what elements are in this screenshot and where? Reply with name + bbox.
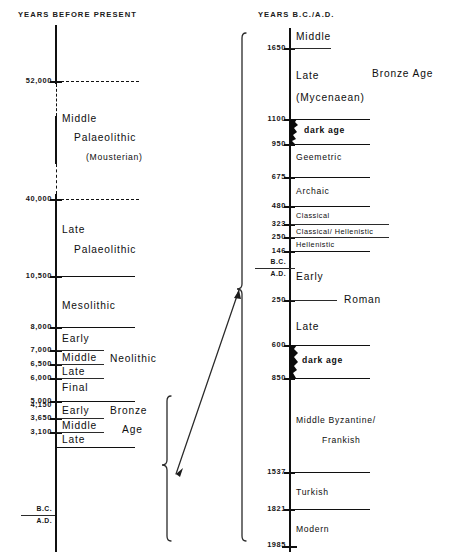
right-divider-250-bc: [291, 237, 389, 238]
left-divider-10500: [57, 276, 135, 277]
left-divider-3650: [57, 418, 104, 419]
right-era-divider: [255, 268, 295, 269]
left-divider-3100: [57, 432, 104, 433]
right-group-label-roman: Roman: [344, 294, 381, 305]
left-tick-label-10500: 10,500: [14, 271, 52, 280]
left-group-label-bronze-line2: Age: [122, 424, 143, 435]
left-tick-label-3650: 3,650: [14, 413, 52, 422]
left-group-label-bronze: Bronze: [110, 405, 147, 416]
left-divider-40000: [61, 199, 139, 200]
right-tick-label-675: 675: [256, 172, 286, 181]
right-period-geometric: Geemetric: [296, 152, 342, 162]
right-divider-1100: [291, 119, 370, 120]
left-axis-spine-bottom: [55, 194, 57, 552]
right-tick-label-1100: 1100: [256, 114, 286, 123]
right-period-dark-age-bronze: dark age: [304, 125, 345, 135]
right-tick-label-480: 480: [256, 201, 286, 210]
left-divider-7000: [57, 350, 104, 351]
right-tick-label-1821: 1821: [252, 504, 286, 513]
right-era-label-bc: B.C.: [252, 258, 286, 265]
left-divider-52000: [61, 81, 139, 82]
right-period-middle-bronze: Middle: [296, 31, 331, 42]
left-era-label-ad: A.D.: [18, 517, 52, 524]
two-column-timeline-figure: YEARS BEFORE PRESENT 52,000 Middle Palae…: [0, 0, 460, 553]
left-axis-spine-dashed-middle: [56, 84, 57, 116]
right-divider-480: [291, 206, 370, 207]
left-period-late-palaeolithic-line2: Palaeolithic: [74, 244, 136, 255]
right-divider-146: [291, 251, 370, 252]
left-divider-5000: [57, 401, 135, 402]
right-tick-mark-1985: [282, 546, 297, 548]
dark-age-blob-bronze: [286, 119, 300, 144]
right-tick-label-1985: 1985: [252, 540, 286, 549]
left-tick-label-3100: 3,100: [14, 427, 52, 436]
right-column-title: YEARS B.C./A.D.: [258, 10, 335, 19]
right-period-modern: Modern: [296, 524, 329, 534]
right-period-mycenaean-note: (Mycenaean): [296, 92, 365, 103]
right-period-classical: Classical: [296, 211, 330, 220]
left-divider-6000: [57, 378, 104, 379]
right-divider-250-ad: [291, 300, 337, 301]
left-period-middle-palaeolithic-line2: Palaeolithic: [74, 132, 136, 143]
left-tick-label-40000: 40,000: [14, 194, 52, 203]
left-axis-spine-dashed-late: [56, 164, 57, 194]
right-tick-label-1537: 1537: [252, 467, 286, 476]
left-axis-spine-top: [55, 25, 57, 84]
right-period-archaic: Archaic: [296, 186, 330, 196]
left-tick-label-8000: 8,000: [14, 322, 52, 331]
right-tick-label-250-ad: 250: [256, 295, 286, 304]
right-tick-label-323: 323: [256, 219, 286, 228]
right-divider-675: [291, 177, 370, 178]
left-period-neolithic-middle: Middle: [62, 352, 97, 363]
right-divider-323: [291, 224, 389, 225]
right-tick-label-1650: 1650: [256, 43, 286, 52]
left-group-label-neolithic: Neolithic: [110, 353, 157, 364]
right-tick-label-600: 600: [256, 340, 286, 349]
right-period-early-roman: Early: [296, 271, 323, 282]
right-period-turkish: Turkish: [296, 487, 329, 497]
right-divider-1650: [291, 48, 331, 49]
left-period-neolithic-late: Late: [62, 366, 85, 377]
left-tick-label-6500: 6,500: [14, 359, 52, 368]
right-period-late-roman: Late: [296, 321, 319, 332]
right-period-middle-byzantine: Middle Byzantine/: [296, 415, 376, 425]
right-tick-label-146: 146: [256, 246, 286, 255]
right-divider-850: [291, 378, 370, 379]
right-period-late-mycenaean: Late: [296, 70, 319, 81]
left-period-mesolithic: Mesolithic: [62, 300, 116, 311]
dark-age-blob-byzantine: [286, 345, 300, 378]
left-tick-label-6000: 6,000: [14, 373, 52, 382]
left-period-neolithic-early: Early: [62, 333, 89, 344]
left-axis-spine-middle: [55, 116, 57, 164]
left-divider-8000: [57, 327, 135, 328]
right-group-label-bronze-age: Bronze Age: [372, 68, 433, 79]
left-divider-bronze-end: [57, 447, 135, 448]
right-period-classical-hellenistic: Classical/ Hellenistic: [296, 227, 374, 236]
left-period-middle-palaeolithic: Middle: [62, 113, 97, 124]
right-era-label-ad: A.D.: [252, 270, 286, 277]
left-divider-6500: [57, 364, 104, 365]
right-period-frankish: Frankish: [322, 435, 361, 445]
right-divider-950: [291, 144, 370, 145]
right-tick-label-950: 950: [256, 139, 286, 148]
left-era-label-bc: B.C.: [18, 505, 52, 512]
left-tick-label-7000: 7,000: [14, 345, 52, 354]
left-period-neolithic-final: Final: [62, 382, 88, 393]
right-tick-label-250-bc: 250: [256, 232, 286, 241]
left-period-mousterian-note: (Mousterian): [86, 152, 143, 162]
left-period-bronze-late: Late: [62, 434, 85, 445]
left-tick-label-52000: 52,000: [14, 76, 52, 85]
left-era-divider: [21, 515, 55, 516]
right-divider-600: [291, 345, 370, 346]
right-divider-1537: [291, 472, 370, 473]
left-period-bronze-early: Early: [62, 405, 89, 416]
left-period-bronze-middle: Middle: [62, 420, 97, 431]
right-period-hellenistic: Hellenistic: [296, 240, 335, 249]
right-period-dark-age-byzantine: dark age: [302, 355, 343, 365]
left-period-late-palaeolithic: Late: [62, 224, 85, 235]
left-tick-label-4150: 4,150: [14, 400, 52, 409]
right-divider-1821: [291, 509, 370, 510]
left-column-title: YEARS BEFORE PRESENT: [18, 10, 137, 19]
right-tick-label-850: 850: [256, 373, 286, 382]
